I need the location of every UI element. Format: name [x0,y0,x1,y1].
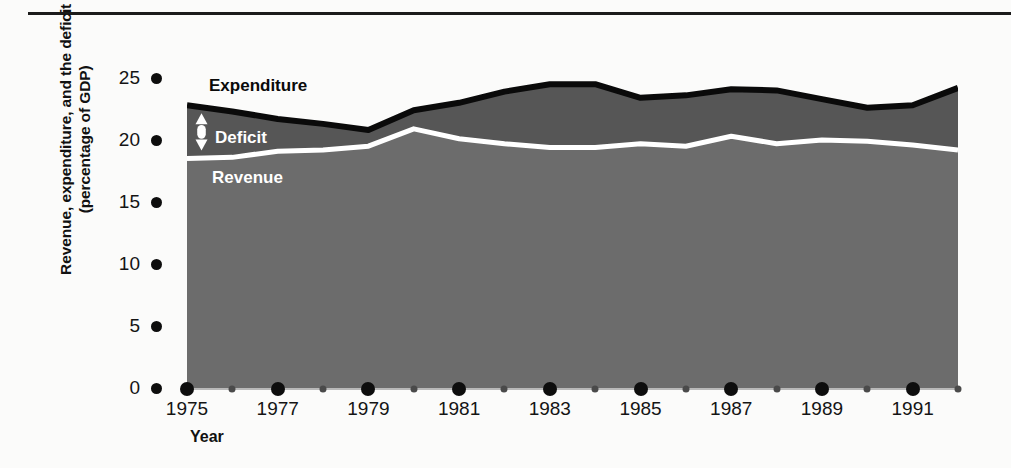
x-tick-label: 1991 [892,398,934,420]
x-tick-dot-icon-1983 [543,382,557,396]
x-tick-label: 1977 [257,398,299,420]
y-tick-15: 15 [100,192,162,212]
x-tick-dot-icon-1975 [180,382,194,396]
x-tick-dot-icon-1991 [906,382,920,396]
deficit-band-label: Deficit [215,128,267,148]
x-tick-dot-icon-1988 [773,386,780,393]
y-tick-label: 0 [129,378,140,398]
x-tick-label: 1975 [166,398,208,420]
x-tick-dot-icon-1985 [634,382,648,396]
x-tick-dot-icon-1984 [592,386,599,393]
x-tick-label: 1987 [710,398,752,420]
x-tick-dot-icon-1982 [501,386,508,393]
x-tick-dot-icon-1986 [682,386,689,393]
y-tick-label: 10 [119,254,140,274]
y-tick-dot-icon [151,259,162,270]
revenue-area-fill [187,129,958,388]
y-axis-title: Revenue, expenditure, and the deficit (p… [56,0,95,319]
y-tick-dot-icon [151,321,162,332]
x-tick-dot-icon-1987 [724,382,738,396]
plot-area [187,47,958,388]
expenditure-series-label: Expenditure [209,76,307,96]
x-tick-label: 1985 [619,398,661,420]
y-tick-dot-icon [151,383,162,394]
area-chart-svg [187,47,958,388]
x-tick-dot-icon-1976 [229,386,236,393]
y-tick-label: 20 [119,130,140,150]
x-tick-dot-icon-1989 [815,382,829,396]
y-tick-5: 5 [100,316,162,336]
y-tick-dot-icon [151,135,162,146]
x-tick-label: 1979 [347,398,389,420]
y-axis-title-line1: Revenue, expenditure, and the deficit [57,4,74,275]
y-tick-label: 15 [119,192,140,212]
y-tick-label: 25 [119,68,140,88]
x-tick-label: 1983 [529,398,571,420]
x-tick-dot-icon-1979 [361,382,375,396]
revenue-series-label: Revenue [212,168,283,188]
x-tick-dot-icon-1981 [452,382,466,396]
y-tick-25: 25 [100,68,162,88]
x-tick-dot-icon-1980 [410,386,417,393]
y-tick-0: 0 [100,378,162,398]
y-tick-20: 20 [100,130,162,150]
x-axis-line [187,388,958,390]
y-tick-dot-icon [151,73,162,84]
x-tick-dot-icon-1978 [320,386,327,393]
y-tick-10: 10 [100,254,162,274]
x-tick-dot-icon-1977 [271,382,285,396]
y-tick-label: 5 [129,316,140,336]
x-axis-title: Year [190,428,224,446]
x-tick-dot-icon-1992 [955,386,962,393]
y-axis-title-line2: (percentage of GDP) [76,65,93,213]
x-tick-dot-icon-1990 [864,386,871,393]
x-tick-label: 1989 [801,398,843,420]
top-rule-divider [28,12,1011,15]
x-tick-label: 1981 [438,398,480,420]
y-tick-dot-icon [151,197,162,208]
chart-figure: Revenue, expenditure, and the deficit (p… [0,0,1011,468]
